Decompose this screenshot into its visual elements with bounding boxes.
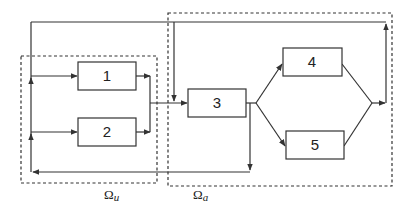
region-omega-a-label: Ωa xyxy=(193,187,209,203)
block-1-label: 1 xyxy=(103,67,111,84)
region-omega-u-label: Ωu xyxy=(104,187,120,203)
block-2-label: 2 xyxy=(103,123,111,140)
block-5: 5 xyxy=(286,131,344,159)
block-2: 2 xyxy=(78,118,136,146)
input-lines xyxy=(31,76,77,140)
block-1: 1 xyxy=(78,62,136,90)
block-3: 3 xyxy=(188,89,246,117)
block-4: 4 xyxy=(283,48,342,76)
block-diagram: 1 2 3 4 5 Ωu Ωa xyxy=(0,0,414,209)
block-5-label: 5 xyxy=(311,136,319,153)
block-4-label: 4 xyxy=(308,53,316,70)
merge-lines xyxy=(136,76,187,132)
block-3-label: 3 xyxy=(213,94,221,111)
